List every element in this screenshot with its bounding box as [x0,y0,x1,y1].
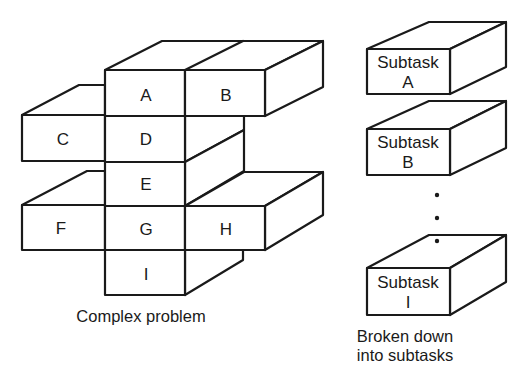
subtask-b-line1: Subtask [377,133,439,152]
subtask-box-i: Subtask I [367,235,506,315]
subtask-b-line2: B [402,153,413,172]
subtask-box-b: Subtask B [367,101,506,175]
cell-d-label: D [140,130,152,149]
subtasks-caption-line1: Broken down [357,327,453,345]
subtasks-caption-line2: into subtasks [357,346,453,364]
cell-c-label: C [57,130,69,149]
cell-a-label: A [140,86,152,105]
subtask-a-line2: A [402,73,414,92]
diagram-canvas: A B C D E F G H I Complex problem Subtas… [0,0,524,382]
side-face-i [185,250,243,295]
cell-i-label: I [144,265,149,284]
complex-problem-block: A B C D E F G H I Complex problem [22,41,323,325]
subtask-a-line1: Subtask [377,53,439,72]
cell-h-label: H [220,220,232,239]
cell-f-label: F [56,219,66,238]
cell-b-label: B [220,86,231,105]
cell-e-label: E [140,175,151,194]
subtask-box-a: Subtask A [367,22,506,94]
subtasks-column: Subtask A Subtask B Subtask I Broken dow… [357,22,506,364]
cell-g-label: G [139,220,152,239]
subtask-i-line2: I [406,293,411,312]
top-face-c [22,85,105,115]
complex-problem-caption: Complex problem [76,307,205,325]
subtask-i-line1: Subtask [377,273,439,292]
top-face-f [22,171,105,205]
